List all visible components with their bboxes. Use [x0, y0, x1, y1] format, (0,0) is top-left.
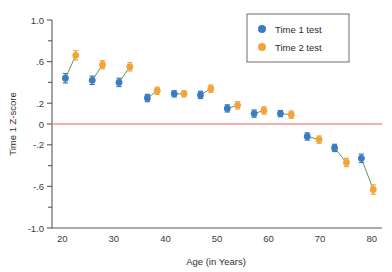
- data-series-group: [62, 51, 377, 195]
- legend-box: [247, 14, 349, 62]
- x-tick-label: 80: [366, 233, 377, 244]
- legend: Time 1 test Time 2 test: [247, 14, 349, 62]
- y-tick-labels: 1.0.6.20-.2-.6-1.0: [28, 15, 44, 234]
- data-point-marker: [224, 105, 231, 112]
- data-point-marker: [331, 145, 338, 152]
- legend-label-time-1-test: Time 1 test: [275, 24, 322, 35]
- tick-marks: [47, 20, 52, 228]
- data-point-marker: [197, 91, 204, 98]
- legend-marker-time-2-test: [258, 43, 266, 51]
- data-point-marker: [288, 111, 295, 118]
- x-tick-label: 70: [315, 233, 326, 244]
- data-point-marker: [251, 110, 258, 117]
- data-point-marker: [234, 102, 241, 109]
- data-point-marker: [144, 95, 151, 102]
- data-point-marker: [358, 155, 365, 162]
- y-tick-label: 0: [39, 119, 44, 130]
- data-point-marker: [370, 186, 377, 193]
- scatter-plot: 1.0.6.20-.2-.6-1.0 20304050607080 Age (i…: [0, 0, 392, 272]
- data-point-marker: [154, 87, 161, 94]
- data-point-marker: [343, 159, 350, 166]
- y-tick-label: -.6: [33, 181, 44, 192]
- chart-container: 1.0.6.20-.2-.6-1.0 20304050607080 Age (i…: [0, 0, 392, 272]
- y-tick-label: -1.0: [28, 223, 44, 234]
- pair-connector-lines: [65, 55, 373, 189]
- data-point-marker: [116, 79, 123, 86]
- data-point-marker: [181, 90, 188, 97]
- y-axis-title: Time 1 Z-score: [7, 92, 18, 156]
- y-tick-label: 1.0: [31, 15, 44, 26]
- data-point-marker: [72, 52, 79, 59]
- pair-connector: [65, 55, 75, 78]
- x-tick-label: 60: [263, 233, 274, 244]
- x-tick-label: 20: [57, 233, 68, 244]
- y-tick-label: -.2: [33, 139, 44, 150]
- data-point-marker: [89, 77, 96, 84]
- x-tick-label: 30: [109, 233, 120, 244]
- data-point-marker: [277, 110, 284, 117]
- x-tick-labels: 20304050607080: [57, 233, 377, 244]
- data-point-marker: [171, 90, 178, 97]
- x-tick-label: 50: [212, 233, 223, 244]
- data-point-marker: [207, 85, 214, 92]
- data-point-marker: [316, 136, 323, 143]
- x-axis-title: Age (in Years): [186, 256, 246, 267]
- y-tick-label: .2: [36, 98, 44, 109]
- data-point-marker: [261, 107, 268, 114]
- series-2: [72, 51, 376, 195]
- data-point-marker: [99, 61, 106, 68]
- x-tick-label: 40: [160, 233, 171, 244]
- data-point-marker: [62, 75, 69, 82]
- data-point-marker: [126, 63, 133, 70]
- y-tick-label: .6: [36, 56, 44, 67]
- legend-label-time-2-test: Time 2 test: [275, 42, 322, 53]
- data-point-marker: [304, 133, 311, 140]
- legend-marker-time-1-test: [258, 25, 266, 33]
